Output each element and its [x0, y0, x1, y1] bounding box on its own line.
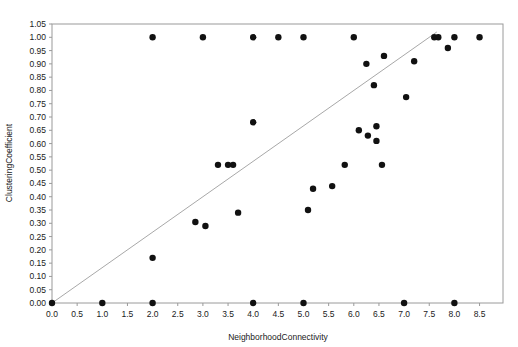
- y-tick-label: 0.10: [29, 271, 46, 281]
- y-tick-label: 0.70: [29, 112, 46, 122]
- y-tick-label: 0.45: [29, 178, 46, 188]
- scatter-point: [310, 186, 316, 192]
- scatter-point: [215, 162, 221, 168]
- y-tick-label: 0.85: [29, 72, 46, 82]
- x-tick-label: 6.0: [348, 309, 360, 319]
- scatter-point: [401, 300, 407, 306]
- scatter-point: [202, 223, 208, 229]
- scatter-point: [305, 207, 311, 213]
- y-tick-label: 0.35: [29, 205, 46, 215]
- y-tick-label: 0.15: [29, 258, 46, 268]
- x-tick-label: 4.0: [247, 309, 259, 319]
- scatter-point: [300, 300, 306, 306]
- scatter-point: [329, 183, 335, 189]
- plot-canvas: 0.00.51.01.52.02.53.03.54.04.55.05.56.06…: [0, 0, 518, 347]
- y-tick-label: 0.20: [29, 245, 46, 255]
- data-points: [49, 34, 483, 306]
- scatter-point: [200, 34, 206, 40]
- y-tick-label: 0.55: [29, 152, 46, 162]
- scatter-point: [451, 34, 457, 40]
- scatter-point: [371, 82, 377, 88]
- y-tick-label: 0.75: [29, 99, 46, 109]
- scatter-point: [149, 34, 155, 40]
- y-tick-label: 0.00: [29, 298, 46, 308]
- x-tick-label: 1.5: [122, 309, 134, 319]
- x-tick-label: 0.5: [71, 309, 83, 319]
- reference-line: [52, 32, 437, 303]
- scatter-point: [235, 209, 241, 215]
- scatter-point: [250, 300, 256, 306]
- y-tick-label: 0.95: [29, 46, 46, 56]
- scatter-point: [192, 219, 198, 225]
- scatter-point: [275, 34, 281, 40]
- scatter-point: [342, 162, 348, 168]
- scatter-point: [435, 34, 441, 40]
- scatter-plot-chart: 0.00.51.01.52.02.53.03.54.04.55.05.56.06…: [0, 0, 518, 347]
- scatter-point: [373, 123, 379, 129]
- scatter-point: [365, 132, 371, 138]
- x-tick-label: 3.0: [197, 309, 209, 319]
- scatter-point: [149, 300, 155, 306]
- x-tick-label: 6.5: [373, 309, 385, 319]
- y-tick-label: 0.25: [29, 232, 46, 242]
- x-tick-label: 1.0: [96, 309, 108, 319]
- x-tick-label: 2.5: [172, 309, 184, 319]
- scatter-point: [363, 61, 369, 67]
- scatter-point: [356, 127, 362, 133]
- y-tick-label: 1.05: [29, 19, 46, 29]
- x-axis-title: NeighborhoodConnectivity: [228, 332, 328, 342]
- x-tick-label: 2.0: [147, 309, 159, 319]
- x-axis-ticks: 0.00.51.01.52.02.53.03.54.04.55.05.56.06…: [46, 303, 486, 319]
- x-tick-label: 4.5: [272, 309, 284, 319]
- scatter-point: [300, 34, 306, 40]
- x-tick-label: 7.0: [398, 309, 410, 319]
- scatter-point: [230, 162, 236, 168]
- scatter-point: [445, 45, 451, 51]
- scatter-point: [250, 119, 256, 125]
- scatter-point: [250, 34, 256, 40]
- x-tick-label: 8.5: [474, 309, 486, 319]
- x-tick-label: 5.5: [323, 309, 335, 319]
- scatter-point: [149, 255, 155, 261]
- y-tick-label: 1.00: [29, 32, 46, 42]
- y-axis-title: ClusteringCoefficient: [4, 123, 14, 202]
- scatter-point: [99, 300, 105, 306]
- y-tick-label: 0.30: [29, 218, 46, 228]
- x-tick-label: 7.5: [423, 309, 435, 319]
- scatter-point: [451, 300, 457, 306]
- x-tick-label: 5.0: [298, 309, 310, 319]
- y-tick-label: 0.60: [29, 139, 46, 149]
- y-tick-label: 0.65: [29, 125, 46, 135]
- trend-line: [52, 32, 437, 303]
- y-tick-label: 0.90: [29, 59, 46, 69]
- x-tick-label: 3.5: [222, 309, 234, 319]
- y-tick-label: 0.40: [29, 192, 46, 202]
- scatter-point: [351, 34, 357, 40]
- plot-frame: [52, 24, 503, 303]
- y-tick-label: 0.05: [29, 285, 46, 295]
- x-tick-label: 0.0: [46, 309, 58, 319]
- scatter-point: [373, 138, 379, 144]
- scatter-point: [403, 94, 409, 100]
- scatter-point: [49, 300, 55, 306]
- scatter-point: [476, 34, 482, 40]
- y-tick-label: 0.50: [29, 165, 46, 175]
- scatter-point: [379, 162, 385, 168]
- x-tick-label: 8.0: [448, 309, 460, 319]
- scatter-point: [381, 53, 387, 59]
- scatter-point: [411, 58, 417, 64]
- y-axis-ticks: 0.000.050.100.150.200.250.300.350.400.45…: [29, 19, 52, 308]
- y-tick-label: 0.80: [29, 85, 46, 95]
